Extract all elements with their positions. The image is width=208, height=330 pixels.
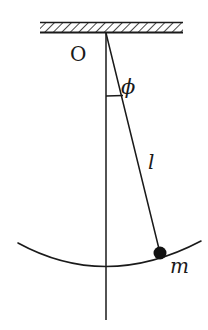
- pendulum-diagram-canvas: [0, 0, 208, 330]
- pendulum-figure: O ϕ l m: [0, 0, 208, 330]
- length-label-l: l: [148, 152, 154, 172]
- ceiling-hatch-fill: [40, 23, 183, 32]
- pivot-label: O: [70, 44, 86, 64]
- pendulum-bob: [154, 247, 167, 260]
- pendulum-string: [106, 33, 160, 253]
- mass-label-m: m: [170, 256, 189, 276]
- angle-label-phi: ϕ: [121, 77, 135, 98]
- ceiling-support: [40, 23, 183, 33]
